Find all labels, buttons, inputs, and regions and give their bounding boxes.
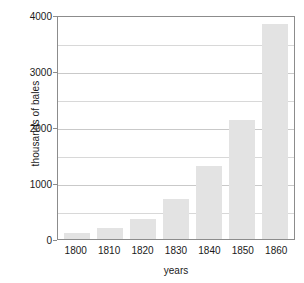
x-tick-label: 1830 (163, 245, 189, 261)
y-tick-label: 1000 (12, 179, 52, 190)
bar (97, 228, 123, 239)
bar (64, 233, 90, 239)
x-axis-ticks: 1800181018201830184018501860 (57, 245, 295, 261)
x-tick-label: 1840 (196, 245, 222, 261)
y-tick-label: 0 (12, 235, 52, 246)
plot-area (57, 16, 295, 240)
x-tick-label: 1850 (230, 245, 256, 261)
bar (229, 120, 255, 239)
bar-series (58, 17, 294, 239)
bar (130, 219, 156, 239)
bar (196, 166, 222, 239)
x-tick-label: 1800 (63, 245, 89, 261)
y-tick-mark (53, 184, 57, 185)
y-tick-mark (53, 72, 57, 73)
x-axis-title: years (57, 265, 295, 276)
x-tick-label: 1810 (96, 245, 122, 261)
bar (163, 199, 189, 239)
y-tick-label: 2000 (12, 123, 52, 134)
x-tick-label: 1860 (263, 245, 289, 261)
bar (262, 24, 288, 239)
y-tick-mark (53, 16, 57, 17)
y-tick-mark (53, 128, 57, 129)
y-tick-label: 4000 (12, 11, 52, 22)
bar-chart: thousands of bales 01000200030004000 180… (0, 0, 304, 283)
x-tick-label: 1820 (130, 245, 156, 261)
y-tick-mark (53, 240, 57, 241)
y-tick-label: 3000 (12, 67, 52, 78)
